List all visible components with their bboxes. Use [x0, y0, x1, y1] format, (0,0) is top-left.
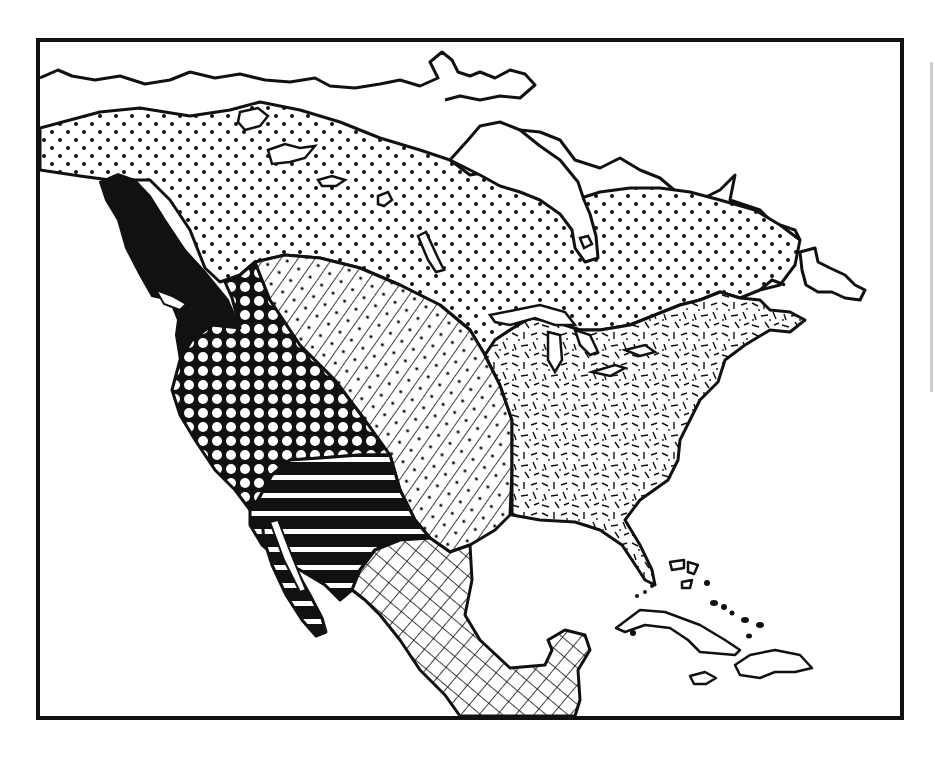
- lake-michigan: [548, 332, 562, 372]
- page-edge-mark: [930, 62, 933, 392]
- north-america-map: [40, 42, 900, 716]
- hispaniola: [735, 650, 812, 678]
- island-a: [670, 560, 684, 570]
- island-b: [688, 562, 698, 574]
- map-frame: [36, 38, 904, 720]
- newfoundland: [800, 248, 865, 300]
- arctic-islands-outline: [40, 52, 535, 100]
- island-c: [682, 580, 692, 588]
- jamaica: [690, 672, 716, 684]
- region-mesoamerica: [352, 538, 590, 716]
- region-eastern-woodlands: [485, 292, 805, 585]
